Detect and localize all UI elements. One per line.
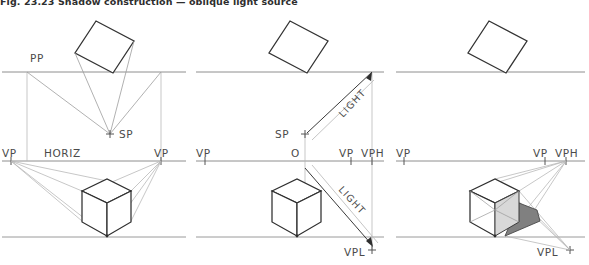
panel-3: VP VP VPH VPL <box>396 21 585 258</box>
cube-base-point-3 <box>494 235 497 238</box>
vph-ray-3 <box>519 161 566 191</box>
label-vpl-2: VPL <box>344 246 365 258</box>
vph-ray-2 <box>495 161 566 179</box>
vph-ray-4 <box>533 161 566 212</box>
cube-plain <box>82 179 131 236</box>
plan-square <box>75 21 134 73</box>
label-vp-left-3: VP <box>396 147 411 159</box>
label-horizon: HORIZ <box>44 147 81 159</box>
label-vp-left: VP <box>2 147 17 159</box>
label-vph-3: VPH <box>555 147 578 159</box>
perspective-figure-canvas: PP SP VP HORIZ VP <box>0 0 589 265</box>
cube-base-point <box>106 235 109 238</box>
label-sp-2: SP <box>275 128 289 140</box>
vp-locator-left <box>27 72 110 134</box>
label-vph-2: VPH <box>361 147 384 159</box>
label-pp: PP <box>30 52 44 64</box>
label-light-upper: LIGHT <box>336 87 368 120</box>
label-vp-right-3: VP <box>533 147 548 159</box>
light-ray-upper <box>307 72 372 133</box>
converge-l2 <box>11 161 82 191</box>
plan-square-2 <box>269 21 328 73</box>
converge-l3 <box>11 161 82 221</box>
label-origin: O <box>291 147 300 159</box>
converge-r3 <box>131 161 161 221</box>
panel-2: SP VP O VP VPH VPL LIGHT LIGHT <box>196 21 384 258</box>
panel-1: PP SP VP HORIZ VP <box>2 21 186 237</box>
cube-base-point-2 <box>296 235 299 238</box>
light-ray-lower-parallel <box>312 165 378 243</box>
plan-square-3 <box>468 21 527 73</box>
label-vp-right: VP <box>154 147 169 159</box>
vpl-marker-2 <box>368 246 376 254</box>
figure-root: Fig. 23.23 Shadow construction — oblique… <box>0 0 589 265</box>
label-vp-right-2: VP <box>339 147 354 159</box>
converge-l1 <box>11 161 112 182</box>
station-point-marker-2 <box>301 130 309 138</box>
cube-plain-2 <box>272 179 321 236</box>
label-vpl-3: VPL <box>537 246 558 258</box>
label-vp-left-2: VP <box>196 147 211 159</box>
label-sp: SP <box>119 128 133 140</box>
converge-r2 <box>131 161 161 191</box>
